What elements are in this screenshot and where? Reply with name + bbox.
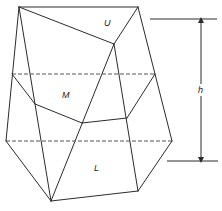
prismoid-diagram: U M L h <box>0 0 222 211</box>
lower-section <box>6 141 172 201</box>
mid-edge-1 <box>12 74 35 104</box>
bottom-edge-right <box>138 141 172 191</box>
label-upper: U <box>104 18 111 28</box>
edge-center-right <box>114 44 138 191</box>
top-face <box>19 7 138 44</box>
mid-edge-2 <box>35 104 82 123</box>
mid-edge-4 <box>127 74 155 118</box>
bottom-edge <box>51 191 138 201</box>
label-middle: M <box>62 90 70 100</box>
bottom-edge-left <box>6 141 51 201</box>
label-height: h <box>198 85 203 95</box>
edge-top-diagonal <box>19 7 114 44</box>
mid-edge-3 <box>82 118 127 123</box>
edge-top-right-inner <box>114 7 138 44</box>
lateral-edges <box>6 7 172 201</box>
height-dimension <box>150 19 218 161</box>
label-lower: L <box>94 163 99 173</box>
mid-section <box>12 74 155 123</box>
